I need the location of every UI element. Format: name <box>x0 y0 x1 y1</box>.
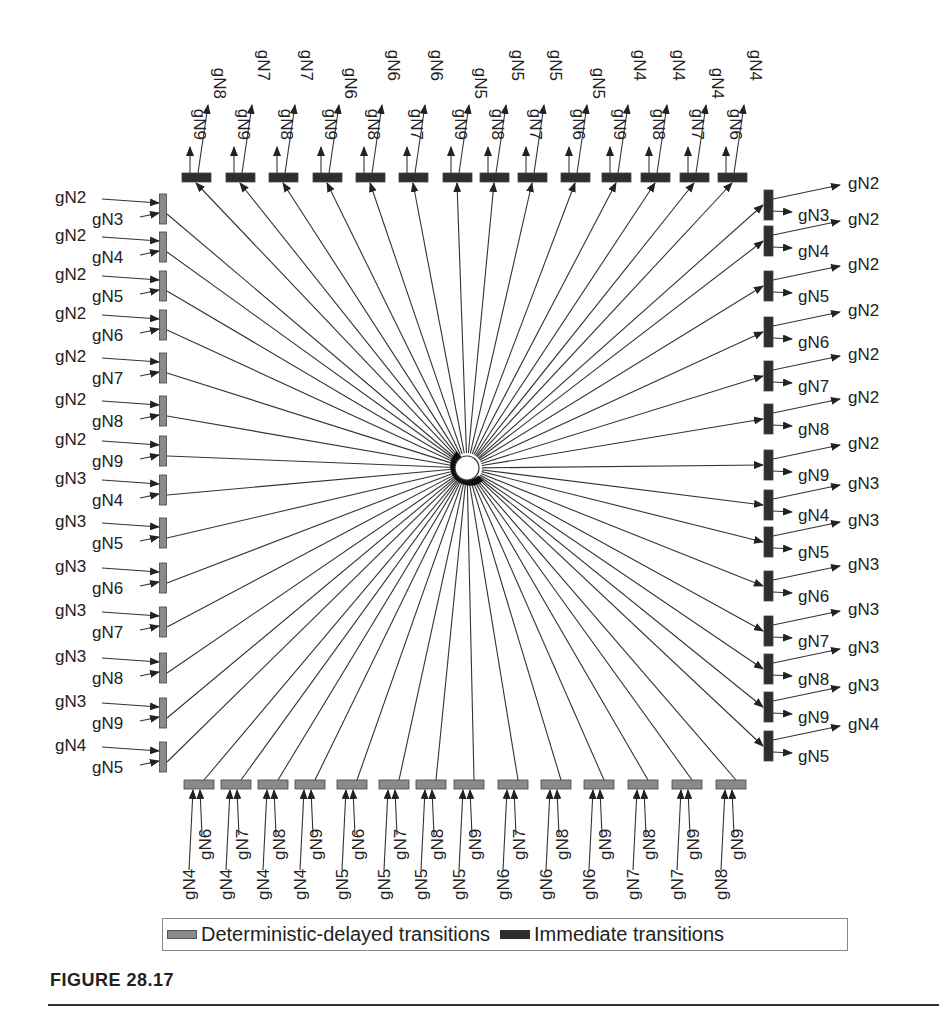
input-place-label: gN6 <box>92 579 123 598</box>
output-place-label: gN6 <box>569 109 588 140</box>
output-place-label: gN3 <box>848 511 879 530</box>
output-arc <box>773 566 840 580</box>
output-arc <box>773 713 792 714</box>
input-arc <box>140 717 159 721</box>
output-arc <box>773 338 792 339</box>
input-arc <box>353 790 355 835</box>
immediate-transition-top <box>269 173 298 182</box>
output-arc <box>475 477 736 780</box>
input-arc <box>477 241 763 461</box>
output-place-label: gN8 <box>649 109 668 140</box>
output-arc <box>773 247 792 248</box>
input-arc <box>140 626 159 630</box>
input-place-label: gN4 <box>217 869 236 900</box>
input-arc <box>468 183 494 456</box>
immediate-transition-right <box>764 527 773 557</box>
input-place-label: gN2 <box>55 265 86 284</box>
deterministic-transition-left <box>160 563 167 593</box>
output-place-label: gN8 <box>277 109 296 140</box>
immediate-transition-right <box>764 731 773 761</box>
output-place-label: gN8 <box>210 68 229 99</box>
output-place-label: gN9 <box>234 109 253 140</box>
immediate-transition-top <box>680 173 709 182</box>
output-place-label: gN2 <box>848 388 879 407</box>
output-arc <box>773 425 792 426</box>
input-place-label: gN7 <box>233 829 252 860</box>
input-place-label: gN4 <box>291 869 310 900</box>
input-place-label: gN8 <box>92 412 123 431</box>
input-arc <box>140 329 159 333</box>
input-arc <box>476 476 763 707</box>
input-place-label: gN6 <box>580 869 599 900</box>
input-place-label: gN2 <box>55 390 86 409</box>
output-place-label: gN6 <box>427 50 446 81</box>
input-arc <box>102 612 159 616</box>
input-arc <box>457 183 467 456</box>
output-arc <box>773 471 792 472</box>
output-place-label: gN2 <box>848 345 879 364</box>
output-arc <box>167 469 455 495</box>
input-place-label: gN6 <box>196 829 215 860</box>
input-arc <box>514 790 516 835</box>
output-place-label: gN5 <box>798 287 829 306</box>
deterministic-transition-bottom <box>672 780 702 789</box>
output-arc <box>773 382 792 383</box>
legend-immediate-label: Immediate transitions <box>534 923 724 946</box>
input-place-label: gN8 <box>553 829 572 860</box>
input-arc <box>644 790 646 835</box>
deterministic-transition-left <box>160 698 167 728</box>
output-place-label: gN4 <box>669 50 688 81</box>
output-arc <box>167 252 457 461</box>
input-arc <box>102 568 159 572</box>
input-arc <box>732 790 734 835</box>
immediate-transition-top <box>561 173 590 182</box>
immediate-transition-right <box>764 450 773 480</box>
output-arc <box>773 592 792 593</box>
input-arc <box>102 358 159 362</box>
output-arc <box>469 480 518 780</box>
input-place-label: gN9 <box>684 829 703 860</box>
deterministic-transition-bottom <box>337 780 367 789</box>
immediate-transition-top <box>718 173 747 182</box>
deterministic-transition-left <box>160 607 167 637</box>
output-place-label: gN9 <box>451 109 470 140</box>
output-place-label: gN7 <box>688 109 707 140</box>
input-arc <box>102 523 159 527</box>
input-arc <box>102 747 159 751</box>
deterministic-transition-bottom <box>628 780 658 789</box>
immediate-transition-top <box>356 173 385 182</box>
input-arc <box>477 475 763 669</box>
input-place-label: gN8 <box>428 829 447 860</box>
input-arc <box>274 790 276 835</box>
output-arc <box>773 511 792 512</box>
input-arc <box>470 790 472 835</box>
input-place-label: gN2 <box>55 304 86 323</box>
output-place-label: gN2 <box>848 301 879 320</box>
input-place-label: gN9 <box>728 829 747 860</box>
output-arc <box>773 356 840 370</box>
output-arc <box>773 312 840 326</box>
output-arc <box>474 478 692 780</box>
output-place-label: gN7 <box>254 50 273 81</box>
input-arc <box>140 213 159 217</box>
output-arc <box>167 474 456 627</box>
immediate-transition-right <box>764 654 773 684</box>
output-arc <box>773 211 792 212</box>
output-place-label: gN5 <box>798 543 829 562</box>
immediate-transition-top <box>226 173 255 182</box>
output-place-label: gN8 <box>364 109 383 140</box>
output-arc <box>167 291 457 462</box>
deterministic-transition-left <box>160 436 167 466</box>
output-place-label: gN8 <box>488 109 507 140</box>
immediate-transition-top <box>641 173 670 182</box>
input-place-label: gN5 <box>92 534 123 553</box>
input-arc <box>503 790 507 870</box>
input-place-label: gN6 <box>92 326 123 345</box>
output-arc <box>472 479 604 780</box>
input-arc <box>102 401 159 405</box>
output-arc <box>773 637 792 638</box>
output-place-label: gN7 <box>798 377 829 396</box>
deterministic-transition-left <box>160 271 167 301</box>
immediate-transition-right <box>764 404 773 434</box>
input-place-label: gN8 <box>270 829 289 860</box>
